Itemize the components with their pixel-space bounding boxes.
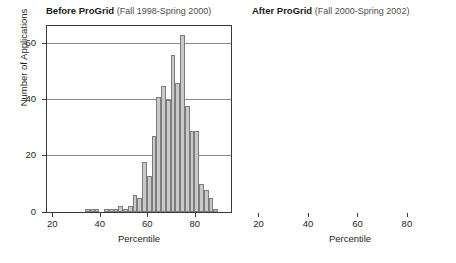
y-axis-tick-mark (42, 212, 46, 213)
x-axis-tick-mark (100, 213, 101, 217)
x-axis-tick-label: 20 (246, 218, 270, 229)
panel-title-sub-before: (Fall 1998-Spring 2000) (117, 6, 212, 16)
x-axis-tick-label: 80 (395, 218, 419, 229)
panel-before-progrid: Before ProGrid (Fall 1998-Spring 2000) N… (0, 0, 240, 263)
x-axis-tick-mark (52, 213, 53, 217)
x-axis-tick-mark (147, 213, 148, 217)
x-axis-tick-label: 20 (40, 218, 64, 229)
panel-after-progrid: After ProGrid (Fall 2000-Spring 2002) Pe… (240, 0, 456, 263)
panel-title-before: Before ProGrid (Fall 1998-Spring 2000) (46, 5, 211, 17)
x-axis-tick-mark (407, 213, 408, 217)
bars-before (47, 26, 231, 212)
histogram-bar (213, 209, 218, 212)
histogram-bar (95, 209, 100, 212)
y-axis-tick-label: 40 (10, 94, 36, 104)
x-axis-tick-label: 80 (183, 218, 207, 229)
y-axis-tick-mark (42, 43, 46, 44)
y-axis-tick-mark (42, 155, 46, 156)
x-axis-tick-label: 60 (135, 218, 159, 229)
x-axis-tick-label: 60 (345, 218, 369, 229)
panel-title-main-after: After ProGrid (252, 5, 312, 16)
x-axis-tick-mark (195, 213, 196, 217)
x-axis-label-before: Percentile (46, 233, 232, 244)
y-axis-tick-label: 0 (10, 207, 36, 217)
y-axis-tick-label: 60 (10, 38, 36, 48)
x-axis-tick-mark (357, 213, 358, 217)
y-axis-tick-label: 20 (10, 150, 36, 160)
x-axis-label-after: Percentile (252, 233, 448, 244)
x-axis-tick-mark (308, 213, 309, 217)
panel-title-sub-after: (Fall 2000-Spring 2002) (315, 6, 410, 16)
panel-title-main-before: Before ProGrid (46, 5, 114, 16)
histogram-figure: Before ProGrid (Fall 1998-Spring 2000) N… (0, 0, 456, 263)
x-axis-tick-mark (258, 213, 259, 217)
x-axis-tick-label: 40 (296, 218, 320, 229)
plot-area-before (46, 25, 232, 213)
x-axis-tick-label: 40 (88, 218, 112, 229)
panel-title-after: After ProGrid (Fall 2000-Spring 2002) (252, 5, 409, 17)
y-axis-tick-mark (42, 99, 46, 100)
